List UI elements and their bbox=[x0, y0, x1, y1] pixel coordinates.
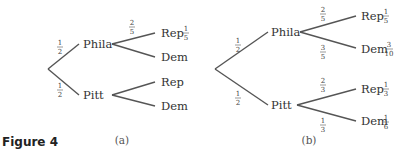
svg-text:2: 2 bbox=[130, 19, 134, 27]
svg-text:1: 1 bbox=[384, 114, 388, 122]
svg-text:2: 2 bbox=[321, 6, 325, 14]
svg-text:3: 3 bbox=[321, 126, 325, 134]
prob-root-pitt: 1 2 bbox=[235, 90, 241, 107]
svg-text:6: 6 bbox=[384, 123, 389, 131]
edge-root-pitt bbox=[48, 69, 79, 95]
svg-text:2: 2 bbox=[58, 48, 62, 56]
svg-text:3: 3 bbox=[321, 86, 325, 94]
svg-text:3: 3 bbox=[321, 44, 325, 52]
figure-label: Figure 4 bbox=[2, 135, 58, 149]
leaf-phila-dem: Dem bbox=[161, 50, 188, 64]
prob-pitt-dem: 1 3 bbox=[320, 117, 326, 134]
prob-root-phila: 1 2 bbox=[235, 37, 241, 54]
edge-phila-dem bbox=[112, 44, 155, 57]
edge-pitt-dem bbox=[297, 105, 356, 121]
svg-text:2: 2 bbox=[236, 99, 240, 107]
prob-phila-rep: 2 5 bbox=[320, 6, 326, 23]
svg-text:1: 1 bbox=[58, 82, 62, 90]
svg-text:5: 5 bbox=[184, 34, 188, 42]
prob-root-pitt: 1 2 bbox=[57, 82, 63, 99]
leaf-phila-rep: Rep bbox=[161, 26, 184, 40]
edge-pitt-rep bbox=[112, 82, 155, 95]
leaf-phila-rep: Rep bbox=[361, 9, 384, 23]
tree-diagram-a: 1 2 1 2 Phila Pitt 2 5 Rep 1 5 bbox=[48, 19, 189, 146]
caption-b: (b) bbox=[302, 134, 317, 146]
svg-text:10: 10 bbox=[385, 50, 394, 58]
prob-phila-dem: 3 5 bbox=[320, 44, 326, 61]
joint-pitt-dem: 1 6 bbox=[383, 114, 389, 131]
svg-text:1: 1 bbox=[236, 37, 240, 45]
leaf-pitt-dem: Dem bbox=[161, 99, 188, 113]
svg-text:2: 2 bbox=[236, 46, 240, 54]
edge-root-phila bbox=[215, 32, 268, 69]
edge-pitt-rep bbox=[297, 89, 356, 105]
svg-text:5: 5 bbox=[321, 53, 325, 61]
node-phila: Phila bbox=[83, 37, 113, 51]
leaf-pitt-rep: Rep bbox=[161, 75, 184, 89]
joint-phila-dem: 3 10 bbox=[385, 41, 394, 58]
tree-diagrams: 1 2 1 2 Phila Pitt 2 5 Rep 1 5 bbox=[0, 0, 412, 156]
svg-text:5: 5 bbox=[384, 17, 388, 25]
svg-text:1: 1 bbox=[58, 39, 62, 47]
caption-a: (a) bbox=[115, 134, 129, 146]
svg-text:1: 1 bbox=[384, 81, 388, 89]
joint-phila-rep: 1 5 bbox=[183, 25, 189, 42]
svg-text:5: 5 bbox=[130, 28, 134, 36]
joint-pitt-rep: 1 3 bbox=[383, 81, 389, 98]
tree-diagram-b: 1 2 1 2 Phila Pitt 2 5 3 5 2 3 bbox=[215, 6, 393, 146]
node-phila: Phila bbox=[271, 25, 301, 39]
svg-text:5: 5 bbox=[321, 15, 325, 23]
leaf-pitt-rep: Rep bbox=[361, 82, 384, 96]
prob-phila-rep: 2 5 bbox=[129, 19, 135, 36]
edge-phila-rep bbox=[300, 16, 356, 32]
edge-pitt-dem bbox=[112, 95, 155, 106]
svg-text:2: 2 bbox=[58, 91, 62, 99]
prob-pitt-rep: 2 3 bbox=[320, 77, 326, 94]
svg-text:1: 1 bbox=[236, 90, 240, 98]
svg-text:1: 1 bbox=[384, 8, 388, 16]
svg-text:1: 1 bbox=[184, 25, 188, 33]
prob-root-phila: 1 2 bbox=[57, 39, 63, 56]
figure-4: 1 2 1 2 Phila Pitt 2 5 Rep 1 5 bbox=[0, 0, 412, 156]
svg-text:3: 3 bbox=[384, 90, 388, 98]
node-pitt: Pitt bbox=[83, 88, 104, 102]
svg-text:3: 3 bbox=[387, 41, 391, 49]
svg-text:2: 2 bbox=[321, 77, 325, 85]
svg-text:1: 1 bbox=[321, 117, 325, 125]
joint-phila-rep: 1 5 bbox=[383, 8, 389, 25]
edge-phila-dem bbox=[300, 32, 356, 48]
edge-root-pitt bbox=[215, 69, 268, 105]
node-pitt: Pitt bbox=[271, 98, 292, 112]
edge-root-phila bbox=[48, 44, 79, 69]
